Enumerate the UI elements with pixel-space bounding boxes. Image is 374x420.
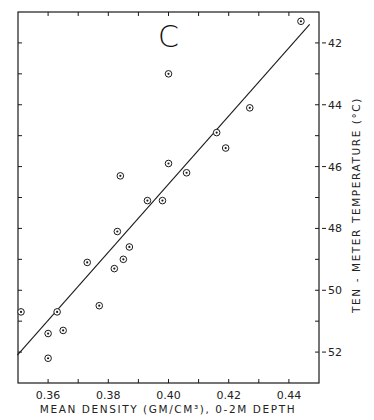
y-tick-label: 44 bbox=[328, 99, 342, 112]
x-tick-label: 0.42 bbox=[216, 389, 241, 402]
point-dot-icon bbox=[128, 246, 130, 248]
point-dot-icon bbox=[216, 131, 218, 133]
data-point bbox=[45, 330, 52, 337]
point-dot-icon bbox=[47, 332, 49, 334]
data-point bbox=[246, 105, 253, 112]
data-point bbox=[45, 355, 52, 362]
data-point bbox=[111, 265, 118, 272]
data-point bbox=[126, 244, 133, 251]
y-tick-label: 42 bbox=[328, 37, 342, 50]
point-dot-icon bbox=[122, 258, 124, 260]
data-point bbox=[165, 71, 172, 78]
y-tick-label: 48 bbox=[328, 222, 342, 235]
y-axis-label: TEN - METER TEMPERATURE (°C) bbox=[350, 97, 362, 314]
data-point bbox=[144, 197, 151, 204]
point-dot-icon bbox=[167, 73, 169, 75]
data-point bbox=[159, 197, 166, 204]
data-point bbox=[96, 302, 103, 309]
data-point bbox=[120, 256, 127, 263]
x-tick-label: 0.44 bbox=[277, 389, 302, 402]
point-dot-icon bbox=[47, 357, 49, 359]
y-tick-label: 46 bbox=[328, 161, 342, 174]
x-axis-label: MEAN DENSITY (GM/CM³), 0-2M DEPTH bbox=[40, 403, 296, 415]
y-tick-label: 52 bbox=[328, 346, 342, 359]
point-dot-icon bbox=[185, 172, 187, 174]
regression-line bbox=[17, 24, 309, 355]
point-dot-icon bbox=[56, 311, 58, 313]
data-point bbox=[84, 259, 91, 266]
point-dot-icon bbox=[300, 20, 302, 22]
data-point bbox=[114, 228, 121, 235]
data-point bbox=[117, 173, 124, 180]
data-point bbox=[298, 18, 305, 25]
data-point bbox=[165, 160, 172, 167]
point-dot-icon bbox=[86, 261, 88, 263]
point-dot-icon bbox=[116, 230, 118, 232]
data-point bbox=[60, 327, 67, 334]
fit-line bbox=[17, 24, 309, 355]
data-point bbox=[222, 145, 229, 152]
point-dot-icon bbox=[98, 305, 100, 307]
point-dot-icon bbox=[161, 199, 163, 201]
x-tick-label: 0.40 bbox=[156, 389, 181, 402]
panel-letter: C bbox=[158, 19, 179, 54]
data-point bbox=[213, 129, 220, 136]
data-point bbox=[183, 169, 190, 176]
x-tick-label: 0.36 bbox=[36, 389, 61, 402]
scatter-chart: 0.360.380.400.420.44 424446485052 C MEAN… bbox=[0, 0, 374, 420]
x-tick-labels: 0.360.380.400.420.44 bbox=[36, 389, 301, 402]
y-tick-label: 50 bbox=[328, 284, 342, 297]
point-dot-icon bbox=[167, 162, 169, 164]
point-dot-icon bbox=[225, 147, 227, 149]
data-point bbox=[18, 309, 25, 316]
point-dot-icon bbox=[113, 268, 115, 270]
x-tick-label: 0.38 bbox=[96, 389, 121, 402]
point-dot-icon bbox=[62, 329, 64, 331]
point-dot-icon bbox=[146, 199, 148, 201]
data-point bbox=[54, 309, 61, 316]
point-dot-icon bbox=[20, 311, 22, 313]
point-dot-icon bbox=[119, 175, 121, 177]
point-dot-icon bbox=[249, 107, 251, 109]
y-tick-labels: 424446485052 bbox=[322, 37, 342, 359]
data-points bbox=[18, 18, 305, 362]
